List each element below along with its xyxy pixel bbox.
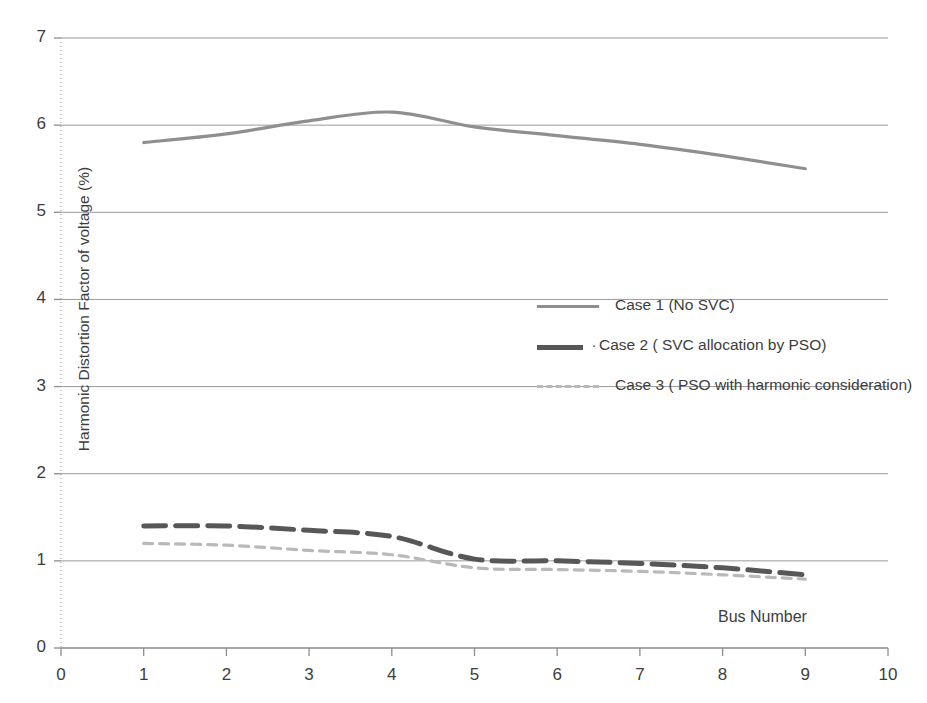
legend-label: Case 1 (No SVC): [615, 296, 735, 314]
y-tick-label: 6: [6, 114, 46, 134]
legend-item-1[interactable]: Case 1 (No SVC): [537, 296, 912, 314]
legend-label: Case 3 ( PSO with harmonic consideration…: [615, 376, 912, 394]
y-axis-title: Harmonic Distortion Factor of voltage (%…: [75, 159, 93, 459]
x-tick-label: 9: [785, 665, 825, 685]
y-tick-label: 2: [6, 463, 46, 483]
x-tick-label: 5: [455, 665, 495, 685]
y-tick-label: 3: [6, 376, 46, 396]
y-tick-label: 5: [6, 201, 46, 221]
legend-label: Case 2 ( SVC allocation by PSO): [599, 336, 826, 354]
legend-item-2[interactable]: ·Case 2 ( SVC allocation by PSO): [537, 336, 912, 354]
x-tick-label: 0: [41, 665, 81, 685]
x-tick-label: 2: [206, 665, 246, 685]
series-line-1: [144, 112, 806, 169]
y-tick-label: 4: [6, 288, 46, 308]
x-tick-label: 4: [372, 665, 412, 685]
legend-swatch-icon: [537, 298, 599, 312]
chart-legend: Case 1 (No SVC)·Case 2 ( SVC allocation …: [537, 296, 912, 394]
legend-marker-dot: ·: [589, 340, 599, 350]
x-tick-label: 3: [289, 665, 329, 685]
legend-swatch-icon: [537, 338, 583, 352]
x-tick-label: 7: [620, 665, 660, 685]
x-tick-label: 1: [124, 665, 164, 685]
x-tick-label: 10: [868, 665, 908, 685]
y-tick-label: 1: [6, 550, 46, 570]
series-line-2: [144, 526, 806, 575]
legend-item-3[interactable]: Case 3 ( PSO with harmonic consideration…: [537, 376, 912, 394]
chart-container: 01234567 012345678910 Harmonic Distortio…: [0, 0, 927, 703]
x-tick-label: 8: [703, 665, 743, 685]
y-tick-label: 7: [6, 27, 46, 47]
x-axis-title: Bus Number: [718, 608, 807, 626]
legend-swatch-icon: [537, 378, 599, 392]
x-tick-label: 6: [537, 665, 577, 685]
y-tick-label: 0: [6, 637, 46, 657]
